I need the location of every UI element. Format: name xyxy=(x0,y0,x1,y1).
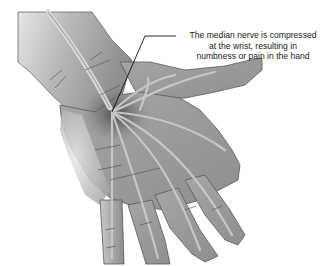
callout-label: The median nerve is compressed at the wr… xyxy=(178,30,328,62)
callout-line-1: The median nerve is compressed xyxy=(178,30,328,41)
callout-line-2: at the wrist, resulting in xyxy=(178,41,328,52)
median-nerve-diagram: The median nerve is compressed at the wr… xyxy=(0,0,331,266)
callout-line-3: numbness or pain in the hand xyxy=(178,51,328,62)
